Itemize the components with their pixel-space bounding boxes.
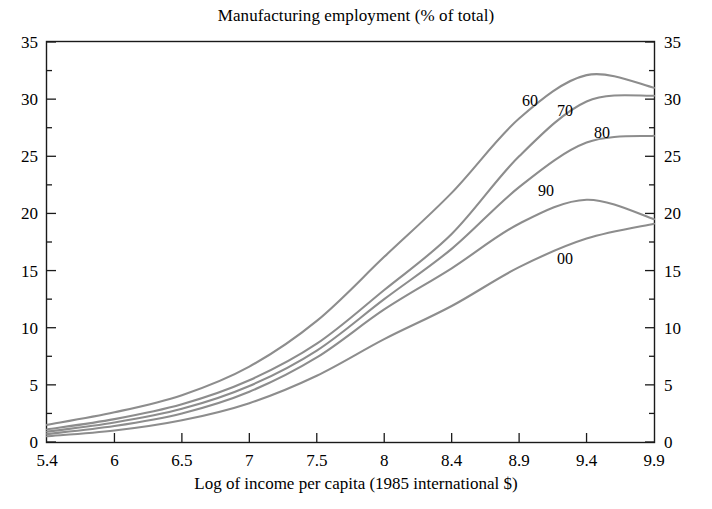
y-tick-label-right: 10 <box>664 319 681 338</box>
y-axis-right-ticks <box>645 42 654 442</box>
x-tick-label: 8.4 <box>441 451 463 470</box>
y-axis-right-labels: 05101520253035 <box>664 33 681 452</box>
x-tick-label: 7.5 <box>306 451 327 470</box>
x-axis-ticks <box>114 433 586 442</box>
y-tick-label-left: 15 <box>21 262 38 281</box>
curve-label-70: 70 <box>557 102 573 119</box>
x-tick-label: 6 <box>110 451 119 470</box>
chart-figure: Manufacturing employment (% of total) 05… <box>0 0 712 509</box>
y-tick-label-right: 0 <box>664 433 673 452</box>
series-curve-80 <box>47 136 654 432</box>
x-tick-label: 8.9 <box>508 451 529 470</box>
curve-label-90: 90 <box>538 182 554 199</box>
curve-label-00: 00 <box>557 250 573 267</box>
y-tick-label-right: 25 <box>664 147 681 166</box>
y-axis-left-ticks <box>47 42 56 442</box>
x-tick-label: 9.4 <box>576 451 598 470</box>
chart-canvas: 05101520253035 05101520253035 5.466.577.… <box>0 0 712 509</box>
y-tick-label-right: 20 <box>664 204 681 223</box>
y-tick-label-right: 5 <box>664 376 673 395</box>
y-axis-left-labels: 05101520253035 <box>21 33 38 452</box>
curve-label-60: 60 <box>522 92 538 109</box>
curve-annotations: 6070809000 <box>522 92 610 267</box>
y-tick-label-right: 35 <box>664 33 681 52</box>
y-tick-label-right: 15 <box>664 262 681 281</box>
x-axis-title: Log of income per capita (1985 internati… <box>0 474 712 494</box>
y-tick-label-right: 30 <box>664 90 681 109</box>
x-tick-label: 9.9 <box>643 451 664 470</box>
y-tick-label-left: 0 <box>30 433 39 452</box>
y-tick-label-left: 35 <box>21 33 38 52</box>
x-axis-labels: 5.466.577.588.48.99.49.9 <box>36 451 664 470</box>
curve-label-80: 80 <box>594 124 610 141</box>
y-tick-label-left: 25 <box>21 147 38 166</box>
y-tick-label-left: 10 <box>21 319 38 338</box>
x-tick-label: 5.4 <box>36 451 58 470</box>
x-tick-label: 6.5 <box>171 451 192 470</box>
x-tick-label: 7 <box>245 451 254 470</box>
y-tick-label-left: 20 <box>21 204 38 223</box>
y-tick-label-left: 30 <box>21 90 38 109</box>
x-tick-label: 8 <box>380 451 389 470</box>
y-tick-label-left: 5 <box>30 376 39 395</box>
